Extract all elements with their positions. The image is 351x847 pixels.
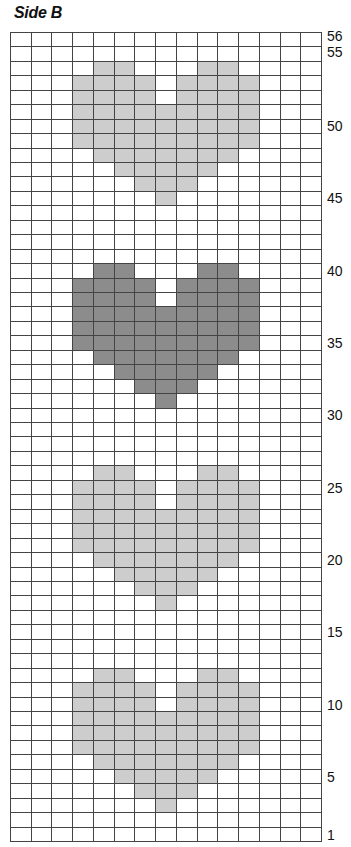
grid-cell [301, 813, 322, 827]
heart-dark-cell [177, 365, 198, 379]
heart-third-cell [94, 481, 115, 495]
heart-top-cell [115, 149, 136, 163]
grid-cell [135, 828, 156, 842]
grid-cell [52, 784, 73, 798]
grid-cell [94, 163, 115, 177]
grid-cell [281, 770, 302, 784]
grid-cell [94, 611, 115, 625]
heart-third-cell [156, 539, 177, 553]
heart-top-cell [156, 105, 177, 119]
heart-dark-cell [156, 307, 177, 321]
grid-cell [73, 380, 94, 394]
grid-cell [239, 365, 260, 379]
grid-cell [156, 437, 177, 451]
heart-bottom-cell [177, 784, 198, 798]
grid-cell [218, 582, 239, 596]
grid-cell [52, 553, 73, 567]
grid-cell [94, 47, 115, 61]
grid-cell [198, 206, 219, 220]
heart-dark-cell [198, 365, 219, 379]
grid-cell [11, 47, 32, 61]
heart-bottom-cell [177, 741, 198, 755]
grid-cell [301, 134, 322, 148]
grid-cell [198, 423, 219, 437]
heart-bottom-cell [218, 698, 239, 712]
grid-cell [32, 741, 53, 755]
grid-cell [239, 394, 260, 408]
grid-cell [11, 177, 32, 191]
row-label-35: 35 [327, 336, 343, 350]
grid-cell [52, 755, 73, 769]
grid-cell [198, 784, 219, 798]
heart-dark-cell [73, 322, 94, 336]
heart-dark-cell [218, 322, 239, 336]
grid-cell [301, 177, 322, 191]
grid-cell [11, 351, 32, 365]
grid-cell [301, 91, 322, 105]
row-label-40: 40 [327, 264, 343, 278]
grid-cell [73, 149, 94, 163]
heart-third-cell [94, 524, 115, 538]
grid-cell [156, 611, 177, 625]
grid-cell [239, 582, 260, 596]
grid-cell [115, 409, 136, 423]
grid-cell [32, 33, 53, 47]
heart-bottom-cell [135, 712, 156, 726]
heart-dark-cell [218, 279, 239, 293]
grid-cell [281, 669, 302, 683]
grid-cell [218, 625, 239, 639]
heart-dark-cell [198, 293, 219, 307]
grid-cell [73, 409, 94, 423]
heart-dark-cell [198, 336, 219, 350]
heart-third-cell [218, 481, 239, 495]
grid-cell [52, 596, 73, 610]
grid-cell [156, 264, 177, 278]
grid-cell [73, 250, 94, 264]
grid-cell [239, 423, 260, 437]
heart-third-cell [156, 524, 177, 538]
grid-cell [32, 452, 53, 466]
grid-cell [52, 279, 73, 293]
grid-cell [11, 741, 32, 755]
grid-cell [94, 380, 115, 394]
grid-cell [156, 423, 177, 437]
heart-dark-cell [239, 279, 260, 293]
heart-top-cell [177, 177, 198, 191]
heart-dark-cell [239, 336, 260, 350]
heart-top-cell [94, 62, 115, 76]
grid-cell [198, 33, 219, 47]
grid-cell [52, 322, 73, 336]
grid-cell [301, 683, 322, 697]
grid-cell [301, 279, 322, 293]
grid-cell [301, 149, 322, 163]
heart-bottom-cell [177, 683, 198, 697]
grid-cell [32, 423, 53, 437]
grid-cell [281, 105, 302, 119]
heart-third-cell [198, 495, 219, 509]
grid-cell [177, 47, 198, 61]
grid-cell [177, 669, 198, 683]
grid-cell [301, 206, 322, 220]
heart-top-cell [239, 120, 260, 134]
grid-cell [260, 91, 281, 105]
grid-cell [94, 33, 115, 47]
grid-cell [52, 669, 73, 683]
grid-cell [239, 770, 260, 784]
grid-cell [32, 409, 53, 423]
heart-bottom-cell [135, 770, 156, 784]
grid-cell [135, 264, 156, 278]
heart-bottom-cell [135, 698, 156, 712]
heart-dark-cell [239, 293, 260, 307]
grid-cell [281, 365, 302, 379]
grid-cell [32, 698, 53, 712]
grid-cell [32, 380, 53, 394]
heart-third-cell [73, 539, 94, 553]
grid-cell [260, 669, 281, 683]
grid-cell [218, 828, 239, 842]
grid-cell [32, 206, 53, 220]
heart-dark-cell [198, 307, 219, 321]
grid-cell [115, 235, 136, 249]
grid-cell [177, 235, 198, 249]
grid-cell [301, 47, 322, 61]
grid-cell [52, 828, 73, 842]
